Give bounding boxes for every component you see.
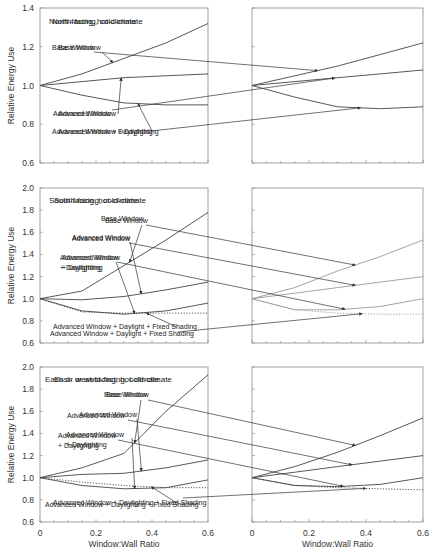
annotation-arrow bbox=[129, 243, 355, 285]
y-tick-label: 2.0 bbox=[22, 183, 34, 193]
annotation-arrow bbox=[94, 52, 318, 71]
y-tick-label: 1.8 bbox=[22, 205, 34, 215]
annotation-arrow bbox=[130, 242, 141, 294]
series-line-advanced-window-daylighting bbox=[40, 478, 208, 489]
y-tick-label: 1.0 bbox=[22, 81, 34, 91]
chart-panel-0: 0.60.81.01.21.4Relative Energy UseNorth-… bbox=[6, 3, 208, 168]
annotation-arrow bbox=[116, 262, 135, 313]
y-tick-label: 2.0 bbox=[22, 362, 34, 372]
annotation-arrow bbox=[128, 420, 352, 465]
series-line-base-window bbox=[252, 43, 423, 86]
series-line-advanced-window-daylighting bbox=[252, 299, 423, 310]
y-axis-label: Relative Energy Use bbox=[6, 405, 16, 483]
y-tick-label: 1.0 bbox=[22, 294, 34, 304]
y-axis-label: Relative Energy Use bbox=[6, 46, 16, 124]
y-tick-label: 1.2 bbox=[22, 451, 34, 461]
series-line-base-window bbox=[252, 240, 423, 299]
y-tick-label: 1.6 bbox=[22, 227, 34, 237]
y-tick-label: 1.4 bbox=[22, 428, 34, 438]
x-tick-label: 0.4 bbox=[360, 528, 372, 538]
series-line-advanced-window-daylighting bbox=[252, 86, 423, 109]
panel-title: North-facing, hot-climate bbox=[49, 17, 137, 26]
panel-title: East- or west-facing, hot-climate bbox=[45, 375, 160, 384]
x-axis-label: Window:Wall Ratio bbox=[302, 539, 373, 549]
annotation-arrow bbox=[183, 488, 365, 498]
series-annotation: Advanced Window + Daylighting bbox=[52, 128, 153, 136]
series-annotation: Advanced Window bbox=[60, 254, 119, 261]
y-tick-label: 0.8 bbox=[22, 495, 34, 505]
series-annotation: Advanced Window bbox=[67, 412, 126, 419]
x-tick-label: 0.2 bbox=[303, 528, 315, 538]
series-line-advanced-window bbox=[252, 70, 423, 86]
series-line-base-window bbox=[252, 418, 423, 478]
series-annotation: Base Window bbox=[101, 215, 145, 222]
annotation-arrow bbox=[178, 314, 362, 332]
annotation-arrow bbox=[151, 108, 360, 131]
series-annotation: Advanced Window + Daylight + Fixed Shadi… bbox=[50, 330, 194, 338]
x-tick-label: 0 bbox=[250, 528, 255, 538]
x-tick-label: 0.6 bbox=[417, 528, 429, 538]
series-annotation: Base Window bbox=[52, 44, 96, 51]
series-line-advanced-window bbox=[40, 74, 208, 86]
plot-frame bbox=[40, 8, 208, 163]
y-tick-label: 0.6 bbox=[22, 158, 34, 168]
chart-panel-1: North-facing, hot-climateBase WindowAdva… bbox=[49, 8, 423, 163]
y-tick-label: 0.6 bbox=[22, 517, 34, 527]
x-tick-label: 0.6 bbox=[202, 528, 214, 538]
series-annotation: + Daylighting bbox=[60, 264, 101, 272]
y-tick-label: 1.6 bbox=[22, 406, 34, 416]
x-tick-label: 0 bbox=[38, 528, 43, 538]
panel-title: South-facing, hot-climate bbox=[49, 196, 138, 205]
y-tick-label: 1.2 bbox=[22, 272, 34, 282]
series-annotation: Advanced Window bbox=[72, 235, 131, 242]
annotation-arrow bbox=[117, 262, 345, 309]
series-line-advanced-window-daylighting-fixed-shading bbox=[252, 478, 423, 490]
x-tick-label: 0.2 bbox=[90, 528, 102, 538]
chart-panel-2: 0.60.81.01.21.41.61.82.0Relative Energy … bbox=[6, 183, 208, 348]
y-tick-label: 0.8 bbox=[22, 316, 34, 326]
y-axis-label: Relative Energy Use bbox=[6, 226, 16, 304]
annotation-arrow bbox=[146, 225, 355, 265]
plot-frame bbox=[252, 367, 423, 522]
annotation-arrow bbox=[148, 400, 355, 445]
y-tick-label: 0.6 bbox=[22, 338, 34, 348]
series-annotation: Advanced Window bbox=[58, 432, 117, 439]
plot-frame bbox=[252, 188, 423, 343]
annotation-arrow bbox=[118, 440, 343, 486]
y-tick-label: 1.4 bbox=[22, 3, 34, 13]
series-line-advanced-window bbox=[252, 456, 423, 478]
series-line-advanced-window bbox=[40, 460, 208, 478]
annotation-arrow bbox=[138, 104, 152, 131]
annotation-arrow bbox=[132, 438, 135, 489]
y-tick-label: 0.8 bbox=[22, 119, 34, 129]
x-tick-label: 0.4 bbox=[146, 528, 158, 538]
y-tick-label: 1.8 bbox=[22, 384, 34, 394]
series-annotation: Base Window bbox=[104, 391, 148, 398]
figure-svg: 0.60.81.01.21.4Relative Energy UseNorth-… bbox=[0, 0, 439, 550]
series-annotation: + Daylighting bbox=[58, 442, 99, 450]
series-annotation: Advanced Window + Daylighting + Fixed Sh… bbox=[45, 501, 198, 509]
y-tick-label: 1.0 bbox=[22, 473, 34, 483]
chart-panel-3: South-facing, hot-climateBase WindowAdva… bbox=[49, 188, 423, 343]
y-tick-label: 1.2 bbox=[22, 42, 34, 52]
plot-frame bbox=[252, 8, 423, 163]
series-line-advanced-window-daylighting bbox=[40, 86, 208, 105]
y-tick-label: 1.4 bbox=[22, 249, 34, 259]
series-annotation: Advanced Window bbox=[53, 110, 112, 117]
series-line-advanced-window-daylight-fixed-shading bbox=[252, 299, 423, 315]
annotation-arrow bbox=[112, 78, 335, 110]
x-axis-label: Window:Wall Ratio bbox=[88, 539, 159, 549]
